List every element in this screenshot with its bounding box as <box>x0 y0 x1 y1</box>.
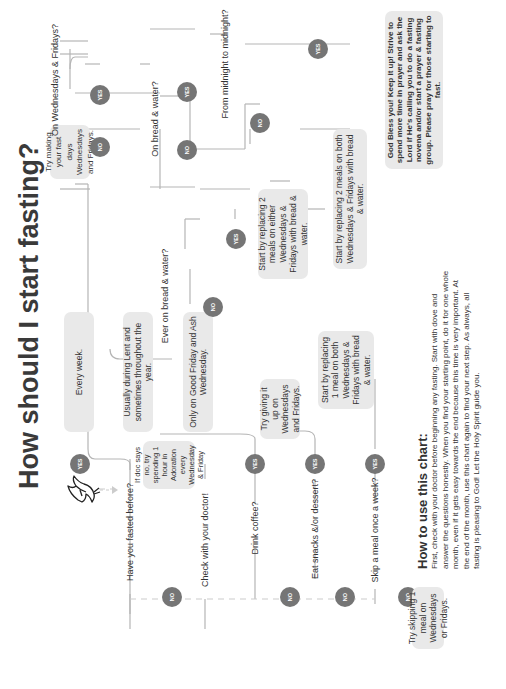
badge-yes-fasted: YES <box>70 454 90 474</box>
badge-yes-wed-fri: YES <box>90 85 110 105</box>
badge-yes-skip: YES <box>365 454 385 474</box>
badge-yes-snacks: YES <box>305 454 325 474</box>
box-replace-1-both: Start by replacing 1 meal on both Wednes… <box>318 331 374 409</box>
how-to-body: First, check with your doctor before beg… <box>430 269 483 569</box>
page-title: How should I start fasting? <box>14 142 45 489</box>
question-check-doctor: Check with your doctor! <box>200 493 210 587</box>
badge-no-fasted: NO <box>162 587 182 607</box>
box-try-giving-up: Try giving it up on Wednesdays and Frida… <box>260 379 300 439</box>
badge-yes-midnight: YES <box>308 39 328 59</box>
how-to-heading: How to use this chart: <box>415 269 430 569</box>
badge-no-coffee: NO <box>280 587 300 607</box>
badge-no-bread-water: NO <box>177 140 197 160</box>
badge-no-snacks: NO <box>335 587 355 607</box>
badge-no-midnight: NO <box>250 113 270 133</box>
box-god-bless: God Bless you! Keep it up! Strive to spe… <box>385 11 443 169</box>
box-try-skipping: Try skipping 1 meal on Wednesdays or Fri… <box>412 587 444 649</box>
question-midnight: From midnight to midnight? <box>220 9 230 118</box>
how-to-section: How to use this chart: First, check with… <box>415 269 483 569</box>
question-drink-coffee: Drink coffee? <box>250 502 260 555</box>
badge-yes-bread-water: YES <box>177 82 197 102</box>
badge-yes-coffee: YES <box>245 454 265 474</box>
question-ever-bread-water: Ever on bread & water? <box>160 249 170 344</box>
question-skip-meal: Skip a meal once a week? <box>370 477 380 582</box>
box-replace-2-both: Start by replacing 2 meals on both Wedne… <box>333 129 367 269</box>
question-bread-water: On bread & water? <box>150 81 160 157</box>
question-fasted-before: Have you fasted before? <box>125 483 135 581</box>
question-eat-snacks: Eat snacks &/or dessert? <box>310 479 320 579</box>
box-usually-lent: Usually during Lent and sometimes throug… <box>123 312 153 432</box>
box-good-friday: Only on Good Friday and Ash Wednesday. <box>183 312 213 432</box>
question-wed-fri: On Wednesdays & Fridays? <box>50 24 60 136</box>
box-replace-2-either: Start by replacing 2 meals on either Wed… <box>258 189 308 279</box>
box-doc-says-no: If doc says no, try spending 1 hour in A… <box>143 441 195 489</box>
dove-icon <box>64 472 104 506</box>
box-every-week: Every week. <box>64 312 94 432</box>
badge-no-wed-fri: NO <box>90 137 110 157</box>
badge-yes-ever-bread: YES <box>226 229 246 249</box>
badge-no-ever-bread: NO <box>203 297 223 317</box>
flowchart-canvas: How should I start fasting? Have you fas… <box>0 0 506 689</box>
